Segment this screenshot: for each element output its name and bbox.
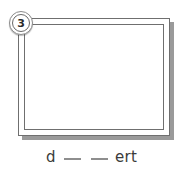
caption-answer-line: d ert bbox=[0, 146, 183, 166]
caption-blank-2[interactable] bbox=[91, 146, 108, 160]
item-number-label: 3 bbox=[17, 18, 25, 29]
item-number-badge-icon: 3 bbox=[9, 11, 33, 35]
caption-prefix: d bbox=[46, 148, 56, 166]
worksheet-exercise-item: 3 d ert bbox=[0, 0, 183, 178]
caption-suffix: ert bbox=[115, 148, 137, 166]
picture-frame-inner-border bbox=[24, 24, 164, 130]
caption-blank-1[interactable] bbox=[64, 146, 81, 160]
picture-frame-canvas[interactable] bbox=[25, 25, 163, 129]
picture-frame[interactable] bbox=[18, 18, 170, 136]
